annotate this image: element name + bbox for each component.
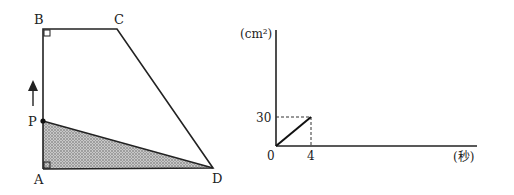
label-b: B	[34, 12, 44, 27]
point-p-dot	[40, 118, 45, 123]
problem-figure: B C P A D (cm²) 30 0 4 (秒)	[0, 0, 514, 195]
label-a: A	[33, 172, 44, 187]
right-angle-mark-b	[44, 30, 50, 36]
label-p: P	[28, 114, 37, 129]
label-c: C	[114, 12, 124, 27]
y-unit-label: (cm²)	[240, 27, 272, 41]
label-d: D	[212, 171, 222, 186]
trapezoid-figure: B C P A D	[28, 12, 222, 187]
x-unit-label: (秒)	[453, 150, 474, 164]
data-line	[276, 117, 311, 146]
origin-label: 0	[267, 149, 275, 163]
x-tick-4: 4	[307, 149, 315, 163]
area-time-graph: (cm²) 30 0 4 (秒)	[240, 27, 477, 164]
y-tick-30: 30	[256, 111, 271, 125]
arrow-up-icon	[28, 80, 38, 106]
